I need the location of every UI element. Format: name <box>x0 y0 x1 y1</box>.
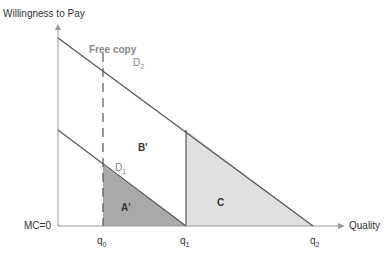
origin-label: MC=0 <box>24 220 51 231</box>
diagram-canvas <box>0 0 389 256</box>
area-a-label: A' <box>121 202 131 213</box>
d1-label: D1 <box>115 162 126 175</box>
y-axis-arrow-icon <box>55 24 61 30</box>
tick-q0: q0 <box>97 235 106 248</box>
area-c-label: C <box>217 197 224 208</box>
x-axis-arrow-icon <box>338 223 345 229</box>
x-axis-label: Quality <box>349 220 380 231</box>
area-b-label: B' <box>138 142 148 153</box>
d2-label: D2 <box>133 57 144 70</box>
y-axis-label: Willingness to Pay <box>3 8 85 19</box>
tick-q2: q2 <box>310 235 319 248</box>
tick-q1: q1 <box>180 235 189 248</box>
free-copy-label: Free copy <box>89 44 136 55</box>
